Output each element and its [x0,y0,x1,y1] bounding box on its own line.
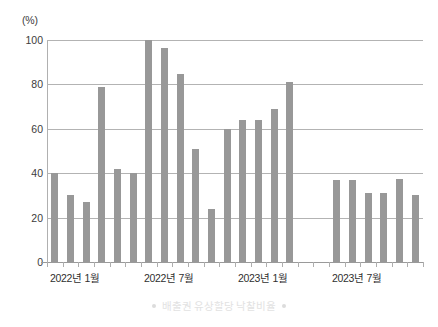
x-axis-tick-mark [235,262,236,267]
bar [208,209,215,262]
bar [161,48,168,262]
x-axis-tick-mark [125,262,126,267]
bar [83,202,90,262]
x-axis-tick-mark [407,262,408,267]
y-axis-unit-label: (%) [22,14,38,26]
x-axis-tick-mark [172,262,173,267]
x-axis-tick-mark [47,262,48,267]
bar [380,193,387,262]
x-axis-tick-mark [329,262,330,267]
bar [286,82,293,262]
x-axis-tick-mark [204,262,205,267]
bar [98,87,105,262]
x-axis-tick-mark [392,262,393,267]
y-axis-tick-label: 40 [3,167,43,179]
x-axis-tick-label: 2023년 1월 [238,270,288,285]
bar [67,195,74,262]
y-axis-tick-label: 60 [3,123,43,135]
bar [349,180,356,262]
bar [412,195,419,262]
x-axis-tick-mark [251,262,252,267]
x-axis-tick-mark [266,262,267,267]
y-axis-tick-labels: 020406080100 [0,40,43,262]
x-axis-tick-mark [110,262,111,267]
bar [224,129,231,262]
y-axis-tick-label: 100 [3,34,43,46]
legend-item-label: 배출권 유상할당 낙찰비율 [162,298,275,313]
bar [255,120,262,262]
bar [365,193,372,262]
bar [333,180,340,262]
x-axis-tick-mark [157,262,158,267]
x-axis-tick-mark [78,262,79,267]
x-axis-tick-mark [282,262,283,267]
bar [114,169,121,262]
x-axis-tick-mark [376,262,377,267]
x-axis-ticks [47,262,423,268]
bar [177,74,184,262]
x-axis-tick-mark [423,262,424,267]
x-axis-tick-label: 2022년 1월 [50,270,100,285]
bar [145,40,152,262]
x-axis-tick-mark [298,262,299,267]
chart-legend: 배출권 유상할당 낙찰비율 [0,298,438,313]
x-axis-tick-mark [63,262,64,267]
plot-area [47,40,423,262]
y-axis-tick-label: 0 [3,256,43,268]
bar [192,149,199,262]
bar [51,173,58,262]
x-axis-tick-mark [141,262,142,267]
bars-layer [47,40,423,262]
legend-bullet-right-icon [282,304,286,308]
x-axis-tick-mark [188,262,189,267]
x-axis-tick-label: 2023년 7월 [332,270,382,285]
y-axis-tick-label: 80 [3,78,43,90]
x-axis-tick-labels: 2022년 1월2022년 7월2023년 1월2023년 7월 [0,270,438,288]
bar [271,109,278,262]
legend-bullet-left-icon [152,304,156,308]
x-axis-tick-mark [360,262,361,267]
x-axis-tick-mark [94,262,95,267]
bar-chart: (%) 020406080100 2022년 1월2022년 7월2023년 1… [0,0,438,327]
bar [396,179,403,262]
x-axis-tick-mark [345,262,346,267]
x-axis-tick-mark [313,262,314,267]
bar [239,120,246,262]
x-axis-tick-label: 2022년 7월 [144,270,194,285]
bar [130,173,137,262]
x-axis-tick-mark [219,262,220,267]
y-axis-tick-label: 20 [3,212,43,224]
